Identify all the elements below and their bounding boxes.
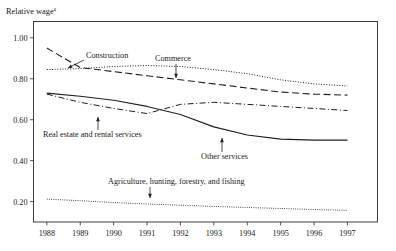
leader-arrowhead-commerce: [174, 74, 178, 78]
series-label-agriculture-hunting-forestry-and-fishing: Agriculture, hunting, forestry, and fish…: [108, 177, 245, 186]
x-tick-label: 1992: [172, 229, 188, 238]
y-tick-label: 0.40: [13, 157, 27, 166]
x-tick-label: 1995: [272, 229, 288, 238]
series-label-construction: Construction: [86, 51, 128, 60]
x-tick-label: 1990: [105, 229, 121, 238]
x-tick-label: 1996: [306, 229, 322, 238]
series-label-commerce: Commerce: [155, 54, 191, 63]
x-tick-label: 1988: [39, 229, 55, 238]
x-tick-label: 1989: [72, 229, 88, 238]
x-tick-marks: [47, 222, 348, 226]
x-tick-label: 1997: [339, 229, 355, 238]
series-annotations: ConstructionCommerceReal estate and rent…: [43, 51, 248, 198]
series-label-real-estate-and-rental-services: Real estate and rental services: [43, 130, 142, 139]
y-axis-title: Relative wagea: [6, 6, 57, 16]
x-tick-labels: 1988198919901991199219931994199519961997: [39, 229, 356, 238]
relative-wage-chart: Relative wagea 0.200.400.600.801.00 1988…: [0, 0, 396, 251]
x-tick-label: 1993: [206, 229, 222, 238]
series-line-agriculture-hunting-forestry-and-fishing: [47, 199, 348, 210]
y-tick-marks: [30, 38, 34, 202]
x-tick-label: 1994: [239, 229, 255, 238]
series-line-real-estate-and-rental-services: [47, 94, 348, 113]
leader-arrowhead-agriculture-hunting-forestry-and-fishing: [148, 194, 152, 198]
leader-arrowhead-other-services: [220, 138, 224, 142]
y-tick-labels: 0.200.400.600.801.00: [13, 34, 27, 207]
y-axis-title-superscript: a: [54, 6, 57, 12]
y-axis-title-text: Relative wage: [6, 7, 54, 16]
series-label-other-services: Other services: [201, 152, 248, 161]
y-tick-label: 0.60: [13, 116, 27, 125]
series-line-commerce: [47, 65, 348, 85]
leader-arrowhead-real-estate-and-rental-services: [96, 117, 100, 121]
y-tick-label: 0.80: [13, 75, 27, 84]
x-tick-label: 1991: [139, 229, 155, 238]
y-tick-label: 0.20: [13, 198, 27, 207]
y-tick-label: 1.00: [13, 34, 27, 43]
